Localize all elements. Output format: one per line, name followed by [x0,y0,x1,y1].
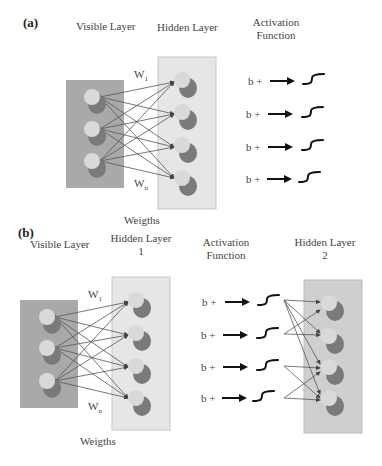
bias-label-b-2: b + [201,329,215,342]
diagram-canvas [0,0,382,466]
bias-label-a-2: b + [246,108,260,121]
wn-label-b: Wn [88,400,102,418]
bias-label-a-1: b + [248,75,262,88]
visible-layer-label-b: Visible Layer [30,238,90,251]
bias-label-a-4: b + [246,173,260,186]
visible-nodes-a [84,89,106,178]
panel-a-tag: (a) [23,15,38,31]
bias-label-b-1: b + [202,296,216,309]
w1-label-b: W1 [88,288,102,306]
activation-label-a: Activation Function [246,16,306,42]
hidden-layer-2-label-b: Hidden Layer 2 [292,236,358,262]
visible-layer-label-a: Visible Layer [76,20,136,33]
bias-label-b-4: b + [201,392,215,405]
wn-label-a: Wn [134,177,148,195]
visible-nodes-b [39,309,61,398]
w1-label-a: W1 [134,68,148,86]
activation-label-b: Activation Function [196,236,256,262]
sigmoid-icons-a [299,74,324,182]
hidden-layer-label-a: Hidden Layer [157,21,218,34]
hidden-layer-1-label-b: Hidden Layer 1 [108,232,174,258]
sigmoid-icons-b [253,295,279,401]
bias-label-a-3: b + [246,141,260,154]
bias-label-b-3: b + [201,361,215,374]
weights-label-b: Weigths [80,435,116,448]
activation-arrows-b [222,302,248,398]
activation-arrows-a [267,81,293,179]
weights-label-a: Weigths [124,214,160,227]
